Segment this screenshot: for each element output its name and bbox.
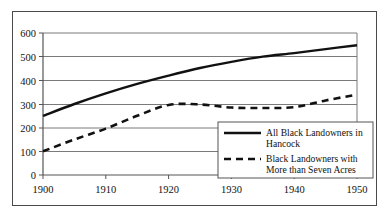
- x-tick-label: 1940: [284, 184, 305, 195]
- x-tick-label: 1950: [347, 184, 368, 195]
- chart-figure: 600 500 400 300 200 100 0 1900 1910 1920…: [0, 0, 389, 220]
- x-axis-tick-labels: 1900 1910 1920 1930 1940 1950: [33, 184, 368, 195]
- x-tick-label: 1930: [221, 184, 242, 195]
- legend-label-line1: All Black Landowners in: [266, 127, 363, 138]
- x-tick-label: 1910: [95, 184, 116, 195]
- chart-legend: All Black Landowners in Hancock Black La…: [218, 122, 373, 178]
- legend-label-line1: Black Landowners with: [266, 153, 358, 164]
- y-tick-label: 400: [20, 76, 36, 87]
- legend-label-line2: More than Seven Acres: [266, 164, 356, 175]
- y-tick-label: 600: [20, 28, 36, 39]
- line-chart: 600 500 400 300 200 100 0 1900 1910 1920…: [0, 0, 389, 220]
- y-tick-label: 300: [20, 100, 36, 111]
- y-tick-label: 0: [31, 170, 36, 181]
- y-tick-label: 200: [20, 123, 36, 134]
- x-tick-label: 1900: [33, 184, 54, 195]
- y-tick-label: 500: [20, 52, 36, 63]
- x-tick-label: 1920: [158, 184, 179, 195]
- y-axis-tick-labels: 600 500 400 300 200 100 0: [20, 28, 36, 181]
- legend-label-line2: Hancock: [266, 138, 300, 149]
- y-tick-label: 100: [20, 147, 36, 158]
